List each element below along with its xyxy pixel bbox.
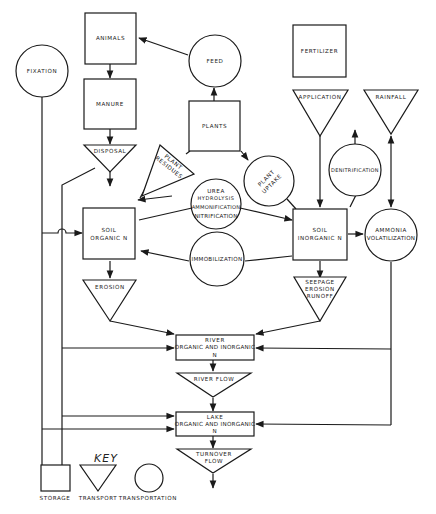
node-urea-hydrolysis: UREA HYDROLYSIS AMMONIFICATION NITRIFICA… bbox=[191, 179, 241, 229]
svg-text:EROSION: EROSION bbox=[95, 284, 125, 290]
svg-text:FEED: FEED bbox=[207, 58, 224, 64]
nitrogen-cycle-diagram: FIXATION ANIMALS FEED MANURE PLANTS FERT… bbox=[0, 0, 436, 514]
node-soil-organic-n: SOIL ORGANIC N bbox=[83, 208, 135, 259]
legend-storage: STORAGE bbox=[40, 465, 71, 501]
node-lake: LAKE ORGANIC AND INORGANIC N bbox=[175, 412, 255, 436]
svg-text:ORGANIC AND INORGANIC: ORGANIC AND INORGANIC bbox=[175, 421, 255, 427]
svg-text:LAKE: LAKE bbox=[207, 414, 224, 420]
svg-text:RAINFALL: RAINFALL bbox=[376, 94, 407, 100]
svg-text:EROSION: EROSION bbox=[305, 286, 335, 292]
svg-text:RIVER FLOW: RIVER FLOW bbox=[194, 376, 235, 382]
svg-text:SOIL: SOIL bbox=[312, 227, 327, 233]
svg-text:IMMOBILIZATION: IMMOBILIZATION bbox=[191, 256, 242, 262]
svg-text:ORGANIC AND INORGANIC: ORGANIC AND INORGANIC bbox=[175, 344, 255, 350]
legend-transport: TRANSPORT bbox=[78, 465, 118, 501]
node-plants: PLANTS bbox=[189, 101, 240, 151]
svg-text:N: N bbox=[213, 352, 218, 358]
svg-text:N: N bbox=[213, 428, 218, 434]
legend-key: KEY STORAGE TRANSPORT TRANSPORTATION bbox=[40, 452, 178, 501]
node-ammonia-volatilization: AMMONIA VOLATILIZATION bbox=[365, 209, 417, 261]
svg-text:APPLICATION: APPLICATION bbox=[299, 94, 342, 100]
node-erosion: EROSION bbox=[83, 280, 136, 321]
svg-text:KEY: KEY bbox=[94, 452, 118, 465]
svg-text:AMMONIA: AMMONIA bbox=[375, 227, 407, 233]
node-fertilizer: FERTILIZER bbox=[293, 25, 346, 77]
node-application: APPLICATION bbox=[293, 90, 348, 136]
svg-text:INORGANIC N: INORGANIC N bbox=[298, 235, 343, 241]
svg-text:RIVER: RIVER bbox=[205, 337, 225, 343]
node-fixation: FIXATION bbox=[16, 45, 68, 97]
node-feed: FEED bbox=[189, 35, 241, 87]
svg-text:MANURE: MANURE bbox=[96, 101, 124, 107]
svg-text:FIXATION: FIXATION bbox=[27, 68, 58, 74]
svg-text:VOLATILIZATION: VOLATILIZATION bbox=[367, 235, 415, 241]
svg-text:ANIMALS: ANIMALS bbox=[96, 35, 125, 41]
svg-text:PLANTS: PLANTS bbox=[202, 123, 227, 129]
node-denitrification: DENITRIFICATION bbox=[329, 144, 381, 196]
node-turnover-flow: TURNOVER FLOW bbox=[177, 449, 251, 473]
node-river: RIVER ORGANIC AND INORGANIC N bbox=[175, 335, 255, 360]
node-animals: ANIMALS bbox=[85, 13, 136, 64]
node-manure: MANURE bbox=[84, 79, 136, 129]
svg-text:NITRIFICATION: NITRIFICATION bbox=[194, 213, 237, 219]
svg-text:ORGANIC N: ORGANIC N bbox=[90, 235, 128, 241]
svg-text:AMMONIFICATION: AMMONIFICATION bbox=[192, 204, 241, 210]
node-soil-inorganic-n: SOIL INORGANIC N bbox=[293, 209, 347, 260]
svg-text:FLOW: FLOW bbox=[205, 458, 223, 464]
node-disposal: DISPOSAL bbox=[84, 145, 136, 172]
node-river-flow: RIVER FLOW bbox=[177, 373, 251, 397]
svg-text:SEEPAGE: SEEPAGE bbox=[305, 279, 334, 285]
svg-text:DISPOSAL: DISPOSAL bbox=[94, 148, 127, 154]
svg-text:HYDROLYSIS: HYDROLYSIS bbox=[197, 195, 234, 201]
node-seepage-erosion-runoff: SEEPAGE EROSION RUNOFF bbox=[294, 277, 346, 321]
legend-transportation: TRANSPORTATION bbox=[118, 464, 177, 501]
svg-text:TRANSPORT: TRANSPORT bbox=[78, 495, 118, 501]
svg-text:DENITRIFICATION: DENITRIFICATION bbox=[331, 167, 379, 173]
svg-text:RUNOFF: RUNOFF bbox=[307, 293, 334, 299]
node-plant-residues: PLANT RESIDUES bbox=[142, 145, 194, 196]
svg-text:TRANSPORTATION: TRANSPORTATION bbox=[118, 495, 177, 501]
node-rainfall: RAINFALL bbox=[364, 90, 418, 134]
svg-text:TURNOVER: TURNOVER bbox=[195, 451, 232, 457]
node-plant-uptake: PLANT UPTAKE bbox=[244, 156, 294, 206]
svg-text:SOIL: SOIL bbox=[101, 227, 116, 233]
node-immobilization: IMMOBILIZATION bbox=[190, 232, 244, 286]
svg-text:STORAGE: STORAGE bbox=[40, 495, 71, 501]
svg-text:FERTILIZER: FERTILIZER bbox=[301, 48, 338, 54]
svg-text:UREA: UREA bbox=[207, 188, 225, 194]
